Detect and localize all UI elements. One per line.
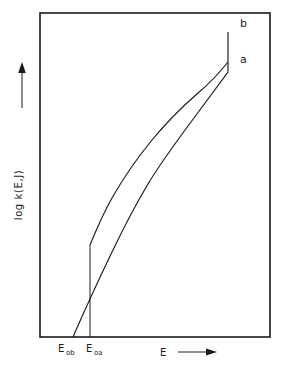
x-tick-eob-base: E <box>58 343 64 354</box>
x-tick-eob-subscript: ob <box>66 349 75 357</box>
curve-b <box>73 32 228 337</box>
plot-frame <box>40 13 270 337</box>
right-arrow-icon <box>178 348 217 355</box>
curve-a <box>90 62 228 245</box>
x-tick-eoa-subscript: oa <box>94 349 103 357</box>
x-tick-label-eoa: E oa <box>86 343 103 357</box>
rate-coefficient-plot: log k(E,J) b a E ob E oa E <box>0 0 284 372</box>
x-tick-label-eob: E ob <box>58 343 75 357</box>
curve-label-b: b <box>240 17 247 30</box>
y-axis-label: log k(E,J) <box>13 170 24 220</box>
up-arrow-icon <box>18 62 26 108</box>
curve-label-a: a <box>240 53 247 66</box>
x-tick-eoa-base: E <box>86 343 92 354</box>
x-axis-label: E <box>160 347 166 358</box>
